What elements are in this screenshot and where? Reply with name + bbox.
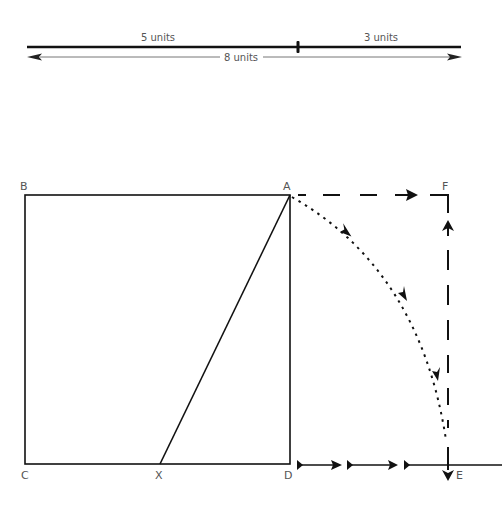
- scale-bar: 5 units 3 units 8 units: [27, 32, 462, 63]
- diagonal-ax: [160, 195, 290, 464]
- curve-arrow-1-icon: [340, 223, 354, 237]
- scale-tick: [297, 41, 300, 53]
- label-f: F: [442, 180, 448, 193]
- dotted-curve-ae: [292, 197, 446, 440]
- label-b: B: [20, 180, 28, 193]
- segment1-label: 5 units: [141, 32, 175, 43]
- square-outline: [25, 195, 290, 464]
- arrow-down-icon: [442, 470, 454, 481]
- diagram-canvas: 5 units 3 units 8 units: [0, 0, 502, 506]
- curve-arrow-3-icon: [432, 367, 440, 381]
- label-e: E: [456, 469, 463, 482]
- square: [25, 195, 290, 464]
- left-arrowhead-icon: [27, 54, 42, 61]
- dashed-path-af: [298, 189, 448, 213]
- point-labels: B A F C X D E: [20, 180, 463, 482]
- label-x: X: [155, 469, 163, 482]
- bottom-arrows: [297, 460, 502, 470]
- label-c: C: [21, 469, 29, 482]
- label-a: A: [283, 180, 291, 193]
- bottom-arrow-3-tail-icon: [404, 460, 410, 470]
- dashed-path-fe: [442, 220, 454, 481]
- curve-arrow-2-icon: [398, 286, 407, 301]
- segment2-label: 3 units: [364, 32, 398, 43]
- label-d: D: [284, 469, 292, 482]
- total-label: 8 units: [224, 52, 258, 63]
